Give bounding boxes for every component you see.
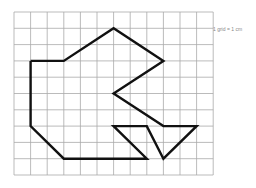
scale-label: 1 grid = 1 cm (213, 26, 242, 32)
